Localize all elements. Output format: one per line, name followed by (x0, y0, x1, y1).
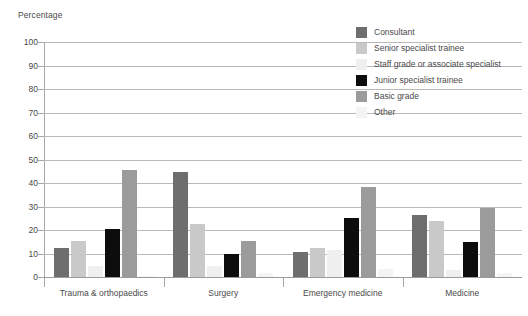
x-axis-label-2: Emergency medicine (303, 288, 382, 298)
y-tick-mark-50 (38, 160, 44, 161)
legend-swatch-icon (356, 27, 367, 38)
bar[interactable] (190, 224, 205, 277)
bar[interactable] (122, 170, 137, 277)
y-tick-label-50: 50 (4, 155, 38, 165)
legend-item-5[interactable]: Other (356, 104, 501, 120)
bar[interactable] (88, 266, 103, 277)
bar-group-0 (54, 42, 154, 277)
bar[interactable] (463, 242, 478, 277)
y-tick-label-20: 20 (4, 225, 38, 235)
bar-chart: Percentage 0102030405060708090100Trauma … (0, 0, 528, 316)
bar[interactable] (224, 254, 239, 278)
bar[interactable] (105, 229, 120, 277)
y-tick-label-30: 30 (4, 202, 38, 212)
x-axis-label-1: Surgery (208, 288, 238, 298)
bar[interactable] (54, 248, 69, 277)
legend-label: Other (374, 107, 395, 117)
y-tick-mark-100 (38, 42, 44, 43)
legend-label: Staff grade or associate specialist (374, 59, 501, 69)
y-tick-mark-80 (38, 89, 44, 90)
bar[interactable] (361, 187, 376, 277)
legend-swatch-icon (356, 75, 367, 86)
category-separator-2 (403, 278, 404, 287)
bar[interactable] (71, 241, 86, 277)
bar[interactable] (258, 273, 273, 277)
bar[interactable] (446, 270, 461, 277)
bar[interactable] (344, 218, 359, 277)
y-tick-label-100: 100 (4, 37, 38, 47)
legend-swatch-icon (356, 59, 367, 70)
y-tick-mark-10 (38, 254, 44, 255)
legend: ConsultantSenior specialist traineeStaff… (356, 24, 501, 120)
y-tick-label-80: 80 (4, 84, 38, 94)
bar[interactable] (293, 252, 308, 277)
y-tick-label-70: 70 (4, 108, 38, 118)
bar[interactable] (139, 276, 154, 277)
legend-swatch-icon (356, 91, 367, 102)
bar[interactable] (480, 208, 495, 277)
bar-group-1 (173, 42, 273, 277)
y-tick-label-10: 10 (4, 249, 38, 259)
legend-item-2[interactable]: Staff grade or associate specialist (356, 56, 501, 72)
legend-label: Senior specialist trainee (374, 43, 464, 53)
legend-swatch-icon (356, 43, 367, 54)
y-tick-label-60: 60 (4, 131, 38, 141)
legend-label: Basic grade (374, 91, 419, 101)
bar[interactable] (310, 248, 325, 277)
y-tick-mark-90 (38, 66, 44, 67)
bar[interactable] (241, 241, 256, 277)
bar[interactable] (378, 269, 393, 277)
y-tick-mark-20 (38, 230, 44, 231)
legend-label: Consultant (374, 27, 415, 37)
x-axis-label-3: Medicine (445, 288, 479, 298)
y-tick-label-90: 90 (4, 61, 38, 71)
legend-item-4[interactable]: Basic grade (356, 88, 501, 104)
bar[interactable] (429, 221, 444, 277)
y-axis-title: Percentage (18, 10, 62, 20)
y-tick-mark-40 (38, 183, 44, 184)
y-tick-label-40: 40 (4, 178, 38, 188)
legend-label: Junior specialist trainee (374, 75, 463, 85)
bar[interactable] (327, 250, 342, 277)
legend-item-3[interactable]: Junior specialist trainee (356, 72, 501, 88)
category-separator-0 (164, 278, 165, 287)
bar[interactable] (173, 172, 188, 277)
category-separator-start (44, 278, 45, 287)
legend-item-1[interactable]: Senior specialist trainee (356, 40, 501, 56)
category-separator-1 (283, 278, 284, 287)
x-axis-label-0: Trauma & orthopaedics (60, 288, 148, 298)
bar[interactable] (207, 266, 222, 277)
y-tick-label-0: 0 (4, 272, 38, 282)
y-tick-mark-60 (38, 136, 44, 137)
bar[interactable] (497, 273, 512, 277)
y-tick-mark-70 (38, 113, 44, 114)
bar[interactable] (412, 215, 427, 277)
y-tick-mark-30 (38, 207, 44, 208)
legend-swatch-icon (356, 107, 367, 118)
legend-item-0[interactable]: Consultant (356, 24, 501, 40)
